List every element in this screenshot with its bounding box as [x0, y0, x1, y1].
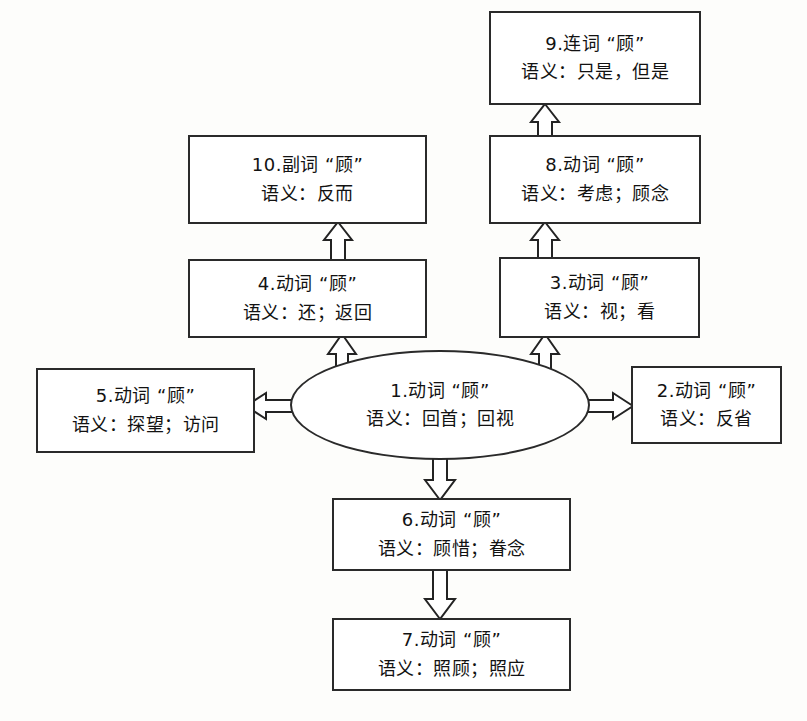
- node-1-line1: 1.动词 “顾”: [390, 378, 490, 404]
- node-2[interactable]: 2.动词 “顾” 语义：反省: [631, 366, 782, 444]
- node-9[interactable]: 9.连词 “顾” 语义：只是，但是: [489, 11, 701, 105]
- node-7-line1: 7.动词 “顾”: [402, 627, 502, 653]
- node-5[interactable]: 5.动词 “顾” 语义：探望；访问: [36, 368, 255, 453]
- node-3-line1: 3.动词 “顾”: [550, 270, 650, 296]
- node-8-line1: 8.动词 “顾”: [545, 152, 645, 178]
- node-7[interactable]: 7.动词 “顾” 语义：照顾；照应: [332, 618, 571, 691]
- node-9-line2: 语义：只是，但是: [521, 59, 669, 85]
- node-9-line1: 9.连词 “顾”: [545, 31, 645, 57]
- node-6-line2: 语义：顾惜；眷念: [378, 536, 526, 562]
- node-2-line2: 语义：反省: [660, 406, 753, 432]
- node-3-line2: 语义：视；看: [544, 299, 655, 325]
- node-7-line2: 语义：照顾；照应: [378, 656, 526, 682]
- node-1-line2: 语义：回首；回视: [366, 406, 514, 432]
- node-10-line1: 10.副词 “顾”: [252, 152, 364, 178]
- arrow-n1-to-n2: [586, 393, 633, 419]
- node-4-line1: 4.动词 “顾”: [258, 271, 358, 297]
- node-5-line1: 5.动词 “顾”: [96, 383, 196, 409]
- diagram-canvas: 9.连词 “顾” 语义：只是，但是 10.副词 “顾” 语义：反而 8.动词 “…: [0, 0, 807, 721]
- arrow-n6-to-n7: [425, 570, 455, 619]
- node-5-line2: 语义：探望；访问: [72, 412, 220, 438]
- node-2-line1: 2.动词 “顾”: [657, 378, 757, 404]
- node-1[interactable]: 1.动词 “顾” 语义：回首；回视: [290, 350, 590, 460]
- node-4-line2: 语义：还；返回: [243, 300, 373, 326]
- arrow-n4-to-n10: [324, 222, 352, 260]
- arrow-n3-to-n8: [531, 222, 559, 258]
- node-8-line2: 语义：考虑；顾念: [521, 181, 669, 207]
- node-4[interactable]: 4.动词 “顾” 语义：还；返回: [188, 259, 427, 338]
- node-10[interactable]: 10.副词 “顾” 语义：反而: [188, 135, 427, 224]
- node-8[interactable]: 8.动词 “顾” 语义：考虑；顾念: [489, 135, 701, 224]
- node-3[interactable]: 3.动词 “顾” 语义：视；看: [499, 257, 700, 338]
- node-10-line2: 语义：反而: [261, 181, 354, 207]
- node-6[interactable]: 6.动词 “顾” 语义：顾惜；眷念: [332, 498, 571, 571]
- node-6-line1: 6.动词 “顾”: [402, 507, 502, 533]
